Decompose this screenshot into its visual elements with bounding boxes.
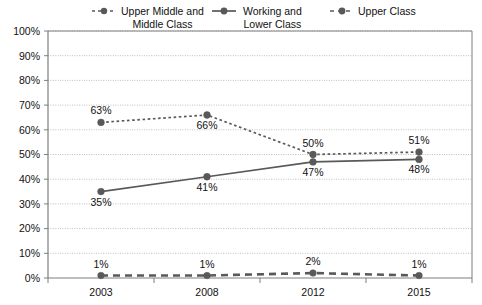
y-tick-label: 30%: [19, 198, 40, 210]
data-point: [416, 272, 423, 279]
y-tick-label: 70%: [19, 99, 40, 111]
y-tick-label: 40%: [19, 173, 40, 185]
legend-label-line1: Upper Class: [358, 5, 416, 17]
data-label: 51%: [408, 134, 429, 146]
x-tick-label: 2015: [407, 286, 431, 298]
legend-marker: [339, 8, 346, 15]
data-point: [310, 151, 317, 158]
data-label: 35%: [90, 196, 111, 208]
chart-container: Upper Middle andMiddle ClassWorking andL…: [0, 0, 482, 305]
y-tick-label: 10%: [19, 247, 40, 259]
data-point: [416, 149, 423, 156]
data-label: 1%: [411, 258, 426, 270]
data-point: [310, 159, 317, 166]
y-tick-label: 0%: [25, 272, 40, 284]
legend-label-line2: Lower Class: [243, 18, 301, 30]
data-label: 1%: [93, 258, 108, 270]
y-tick-label: 80%: [19, 74, 40, 86]
legend-marker: [101, 8, 107, 14]
data-point: [310, 270, 317, 277]
data-point: [204, 272, 211, 279]
legend-label-line1: Upper Middle and: [121, 5, 204, 17]
y-tick-label: 90%: [19, 50, 40, 62]
x-tick-label: 2003: [89, 286, 113, 298]
x-tick-label: 2008: [195, 286, 219, 298]
data-point: [204, 112, 211, 119]
data-label: 2%: [305, 255, 320, 267]
data-label: 1%: [199, 258, 214, 270]
data-label: 48%: [408, 163, 429, 175]
data-point: [416, 156, 423, 163]
data-label: 66%: [196, 119, 217, 131]
y-tick-label: 60%: [19, 124, 40, 136]
chart-background: [0, 0, 482, 305]
legend-label-line1: Working and: [243, 5, 302, 17]
data-label: 41%: [196, 181, 217, 193]
legend-marker: [221, 8, 228, 15]
line-chart: Upper Middle andMiddle ClassWorking andL…: [0, 0, 482, 305]
y-tick-label: 100%: [13, 25, 40, 37]
data-label: 63%: [90, 104, 111, 116]
data-point: [204, 173, 211, 180]
data-label: 47%: [302, 166, 323, 178]
data-point: [98, 119, 105, 126]
y-tick-label: 20%: [19, 222, 40, 234]
data-label: 50%: [302, 137, 323, 149]
y-tick-label: 50%: [19, 148, 40, 160]
data-point: [98, 188, 105, 195]
data-point: [98, 272, 105, 279]
legend-label-line2: Middle Class: [132, 18, 192, 30]
x-tick-label: 2012: [301, 286, 325, 298]
